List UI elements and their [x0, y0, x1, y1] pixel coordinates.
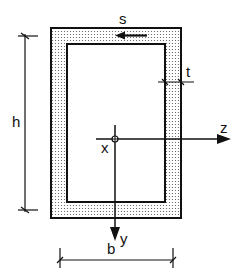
- label-x: x: [101, 139, 109, 156]
- label-s: s: [119, 10, 127, 27]
- label-h: h: [12, 113, 20, 130]
- b-dimension: [57, 248, 176, 268]
- label-t: t: [186, 63, 191, 80]
- label-b: b: [107, 240, 115, 257]
- label-z: z: [220, 119, 228, 136]
- section-walls: [51, 28, 181, 218]
- label-y: y: [120, 230, 128, 247]
- cross-section-diagram: s t h b z y x: [0, 0, 241, 278]
- centroid-marker: [112, 136, 118, 142]
- h-dimension: [18, 33, 38, 213]
